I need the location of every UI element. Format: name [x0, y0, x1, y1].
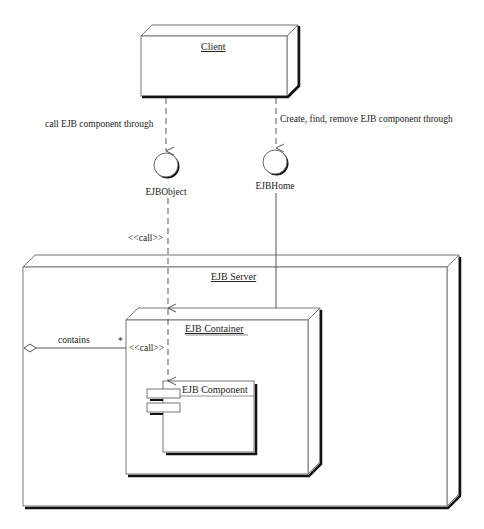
ejb-component-title: EJB Component: [182, 384, 248, 395]
edge-contains-label: contains: [58, 335, 90, 345]
ejbobject-interface[interactable]: EJBObject: [145, 153, 187, 197]
ejb-server-side-face: [447, 255, 459, 506]
ejb-component-tab-bottom: [147, 403, 180, 412]
ejbobject-label: EJBObject: [145, 187, 187, 197]
edge-ejbobject-to-container-label: <<call>>: [128, 233, 163, 243]
ejb-container-top-face: [126, 308, 320, 320]
client-node-side-face: [287, 25, 298, 96]
client-node-title: Client: [201, 41, 226, 52]
ejb-component[interactable]: EJB Component: [147, 381, 256, 454]
edge-container-to-component-label: <<call>>: [129, 343, 164, 353]
ejbobject-lollipop-icon: [154, 153, 178, 177]
edge-client-to-ejbobject-label: call EJB component through: [45, 119, 154, 129]
deployment-diagram: Client EJB Server EJB Container EJB Comp…: [0, 0, 484, 529]
ejb-container-title: EJB Container: [185, 323, 244, 334]
edge-client-to-ejbobject[interactable]: call EJB component through: [45, 98, 166, 151]
ejb-server-title: EJB Server: [211, 271, 257, 282]
ejbhome-lollipop-icon: [263, 150, 287, 174]
ejb-server-top-face: [23, 255, 459, 267]
ejb-container-side-face: [308, 308, 320, 474]
ejbhome-label: EJBHome: [255, 181, 294, 191]
client-node-top-face: [141, 25, 298, 36]
client-node[interactable]: Client: [141, 25, 299, 97]
ejbhome-interface[interactable]: EJBHome: [255, 150, 294, 191]
edge-client-to-ejbhome[interactable]: Create, find, remove EJB component throu…: [276, 98, 453, 148]
edge-client-to-ejbhome-label: Create, find, remove EJB component throu…: [280, 114, 453, 124]
edge-contains-multiplicity: *: [118, 336, 123, 346]
ejb-component-tab-top: [147, 389, 180, 398]
